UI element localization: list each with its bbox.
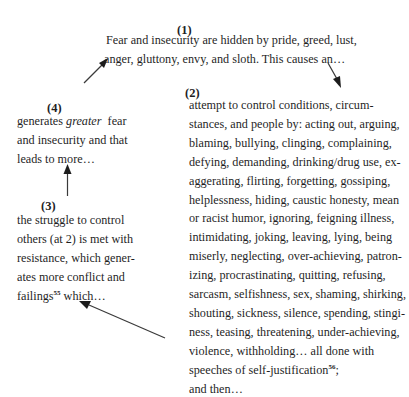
node-2-line: shouting, sickness, silence, spending, s… [189, 304, 406, 323]
node-2-line: izing, procrastinating, quitting, refusi… [189, 266, 406, 285]
node-3-line: the struggle to control [17, 211, 135, 230]
node-2-line-punct: ; [335, 363, 338, 377]
node-2-line: stances, and people by: acting out, argu… [189, 115, 406, 134]
node-2-line: miserly, neglecting, over-achieving, pat… [189, 247, 406, 266]
node-3-line: ates more conflict and [17, 268, 135, 287]
node-2-closing: and then… [189, 380, 406, 397]
node-1-text: Fear and insecurity are hidden by pride,… [104, 31, 357, 69]
node-3-line: others (at 2) is met with [17, 230, 135, 249]
node-2-line: intimidating, joking, leaving, lying, be… [189, 228, 406, 247]
node-3-line: resistance, which gener- [17, 249, 135, 268]
node-4-text: generates greater fear and insecurity an… [17, 112, 128, 169]
node-2-line: helplessness, hiding, caustic honesty, m… [189, 191, 406, 210]
arrow-up-icon [64, 164, 72, 196]
node-2-line: defying, demanding, drinking/drug use, e… [189, 153, 406, 172]
node-4-line: and insecurity and that [17, 131, 128, 150]
node-2-line: or racist humor, ignoring, feigning illn… [189, 209, 406, 228]
node-4-emphasis: greater [66, 114, 101, 128]
node-4-line: generates greater fear [17, 112, 128, 131]
node-2-line: speeches of self-justification56; [189, 361, 406, 380]
node-2-line: ness, teasing, threatening, under-achiev… [189, 323, 406, 342]
node-2-line: attempt to control conditions, circum- [189, 96, 406, 115]
node-2-text: attempt to control conditions, circum- s… [189, 96, 406, 397]
node-2-line: blaming, bullying, clinging, complaining… [189, 134, 406, 153]
node-2-line-text: speeches of self-justification [189, 363, 328, 377]
node-2-line: sarcasm, selfishness, sex, shaming, shir… [189, 285, 406, 304]
node-4-line: leads to more… [17, 150, 128, 169]
node-3-line-text: which… [61, 289, 106, 303]
footnote-ref-55[interactable]: 55 [54, 289, 61, 297]
arrow-up-left-icon [79, 301, 165, 338]
node-4-line-text: fear [102, 114, 127, 128]
node-1-line: anger, gluttony, envy, and sloth. This c… [104, 50, 357, 69]
node-1-line: Fear and insecurity are hidden by pride,… [104, 31, 357, 50]
node-3-line-text: failings [17, 289, 54, 303]
node-3-line: failings55 which… [17, 287, 135, 306]
node-2-line: violence, withholding… all done with [189, 342, 406, 361]
node-3-text: the struggle to control others (at 2) is… [17, 211, 135, 306]
node-2-line: aggerating, flirting, forgetting, gossip… [189, 172, 406, 191]
node-4-line-text: generates [17, 114, 66, 128]
